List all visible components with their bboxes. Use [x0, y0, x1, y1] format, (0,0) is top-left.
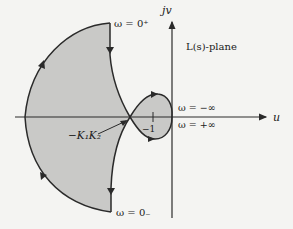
nyquist-diagram: jv u L(s)-plane ω = 0⁺ ω = 0₋ ω = −∞ ω =… — [0, 0, 293, 229]
u-axis-label: u — [273, 111, 280, 124]
omega-pos-inf-label: ω = +∞ — [178, 119, 216, 130]
crossing-point-label: −K₁K₂ — [68, 129, 101, 141]
jv-axis-label: jv — [159, 4, 172, 17]
plane-label: L(s)-plane — [186, 41, 237, 52]
omega-0-plus-label: ω = 0⁺ — [114, 18, 149, 29]
omega-0-minus-label: ω = 0₋ — [116, 207, 151, 218]
critical-point-label: −1 — [142, 124, 155, 134]
omega-neg-inf-label: ω = −∞ — [178, 102, 216, 113]
